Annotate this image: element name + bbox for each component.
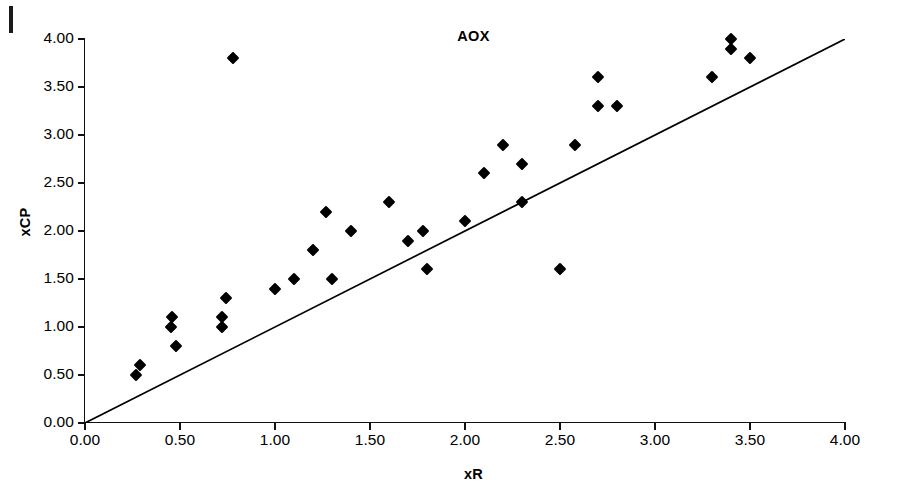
y-tick-mark <box>78 278 85 279</box>
x-tick-mark <box>274 423 275 430</box>
x-tick-label: 3.50 <box>720 431 780 449</box>
y-tick-label: 4.00 <box>28 29 74 47</box>
x-tick-mark <box>844 423 845 430</box>
y-tick-mark <box>78 326 85 327</box>
x-tick-label: 0.50 <box>150 431 210 449</box>
y-tick-label: 3.50 <box>28 77 74 95</box>
x-tick-label: 2.00 <box>435 431 495 449</box>
scan-artifact <box>9 6 13 33</box>
y-tick-label: 0.00 <box>28 413 74 431</box>
y-tick-label: 1.50 <box>28 269 74 287</box>
y-tick-mark <box>78 230 85 231</box>
y-tick-label: 0.50 <box>28 365 74 383</box>
y-tick-mark <box>78 38 85 39</box>
x-tick-mark <box>179 423 180 430</box>
x-tick-mark <box>559 423 560 430</box>
x-tick-mark <box>654 423 655 430</box>
y-tick-label: 2.50 <box>28 173 74 191</box>
identity-reference-line <box>85 39 845 423</box>
y-tick-mark <box>78 374 85 375</box>
x-tick-mark <box>749 423 750 430</box>
y-tick-label-group: 0.000.501.001.502.002.503.003.504.00 <box>14 0 74 500</box>
x-tick-label: 0.00 <box>55 431 115 449</box>
y-tick-label: 2.00 <box>28 221 74 239</box>
y-tick-mark <box>78 86 85 87</box>
x-tick-mark <box>369 423 370 430</box>
x-tick-mark <box>84 423 85 430</box>
y-tick-mark <box>78 182 85 183</box>
x-tick-label: 1.50 <box>340 431 400 449</box>
scatter-plot-figure: AOX xCP xR 0.000.501.001.502.002.503.003… <box>0 0 897 500</box>
x-tick-label: 3.00 <box>625 431 685 449</box>
y-tick-label: 1.00 <box>28 317 74 335</box>
x-tick-label: 4.00 <box>815 431 875 449</box>
x-tick-label: 2.50 <box>530 431 590 449</box>
y-tick-mark <box>78 134 85 135</box>
x-tick-mark <box>464 423 465 430</box>
x-axis-title: xR <box>25 466 897 482</box>
x-tick-label: 1.00 <box>245 431 305 449</box>
plot-area <box>85 39 845 423</box>
y-tick-label: 3.00 <box>28 125 74 143</box>
